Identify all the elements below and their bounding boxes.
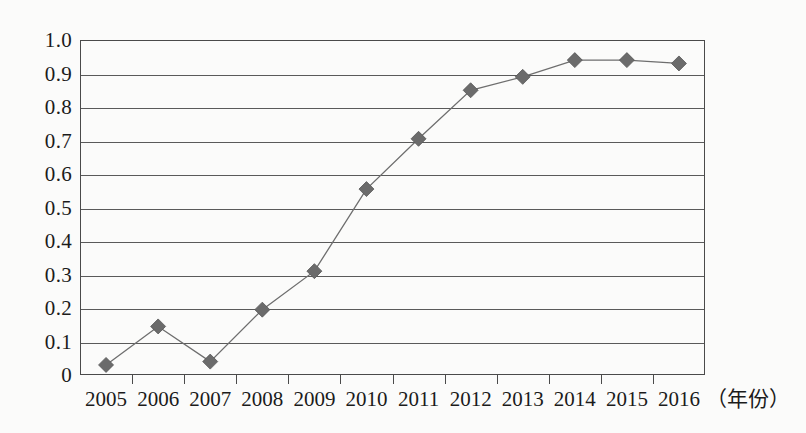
x-axis-unit-label: （年份） bbox=[706, 386, 790, 412]
x-tick-mark bbox=[549, 375, 550, 384]
x-tick-mark bbox=[340, 375, 341, 384]
x-tick-mark bbox=[132, 375, 133, 384]
x-tick-label: 2009 bbox=[293, 386, 335, 412]
x-tick-label: 2013 bbox=[502, 386, 544, 412]
x-tick-mark bbox=[497, 375, 498, 384]
data-series-layer bbox=[80, 40, 705, 375]
x-tick-label: 2016 bbox=[658, 386, 700, 412]
y-tick-label: 0.3 bbox=[0, 264, 72, 285]
data-point-marker bbox=[567, 53, 582, 68]
x-tick-label: 2014 bbox=[554, 386, 596, 412]
x-tick-label: 2011 bbox=[398, 386, 439, 412]
y-tick-label: 0.1 bbox=[0, 331, 72, 352]
y-tick-label: 0.2 bbox=[0, 298, 72, 319]
y-axis: 1.00.90.80.70.60.50.40.30.20.10 bbox=[0, 0, 72, 433]
x-tick-label: 2012 bbox=[450, 386, 492, 412]
x-tick-label: 2015 bbox=[606, 386, 648, 412]
data-point-marker bbox=[99, 357, 114, 372]
x-tick-label: 2008 bbox=[241, 386, 283, 412]
series-line bbox=[106, 60, 679, 365]
y-tick-label: 0.6 bbox=[0, 164, 72, 185]
x-tick-label: 2005 bbox=[85, 386, 127, 412]
x-tick-mark bbox=[653, 375, 654, 384]
x-tick-label: 2007 bbox=[189, 386, 231, 412]
x-tick-mark bbox=[601, 375, 602, 384]
y-tick-label: 0.7 bbox=[0, 130, 72, 151]
data-point-marker bbox=[307, 264, 322, 279]
x-axis-ticks bbox=[80, 375, 705, 384]
x-tick-label: 2006 bbox=[137, 386, 179, 412]
data-point-marker bbox=[515, 69, 530, 84]
x-tick-mark bbox=[288, 375, 289, 384]
x-tick-mark bbox=[184, 375, 185, 384]
line-chart-figure: 1.00.90.80.70.60.50.40.30.20.10 20052006… bbox=[0, 0, 806, 433]
data-point-marker bbox=[151, 319, 166, 334]
x-tick-mark bbox=[236, 375, 237, 384]
data-point-marker bbox=[671, 56, 686, 71]
data-point-marker bbox=[619, 53, 634, 68]
y-tick-label: 0.4 bbox=[0, 231, 72, 252]
y-tick-label: 0.5 bbox=[0, 197, 72, 218]
y-tick-label: 0 bbox=[0, 365, 72, 386]
y-tick-label: 1.0 bbox=[0, 30, 72, 51]
x-tick-mark bbox=[445, 375, 446, 384]
x-tick-label: 2010 bbox=[345, 386, 387, 412]
y-tick-label: 0.8 bbox=[0, 97, 72, 118]
x-axis: 2005200620072008200920102011201220132014… bbox=[80, 386, 705, 416]
x-tick-mark bbox=[393, 375, 394, 384]
y-tick-label: 0.9 bbox=[0, 63, 72, 84]
